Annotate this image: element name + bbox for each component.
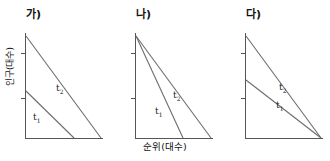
panel-a-label-t1: t1 <box>33 113 40 124</box>
panel-b-label-t2: t2 <box>173 91 180 102</box>
panel-c-plot <box>220 0 330 161</box>
panel-b-plot <box>110 0 220 161</box>
panel-c-label-t2: t2 <box>279 83 286 94</box>
panel-a-label-t2: t2 <box>56 84 63 95</box>
panel-c: 다) t2 t1 <box>220 0 330 161</box>
panel-a: 가) 인구(대수) t2 t1 <box>0 0 110 161</box>
panel-a-plot <box>0 0 110 161</box>
panel-b-x-axis-label: 순위(대수) <box>110 142 220 152</box>
panel-b: 나) 순위(대수) t2 t1 <box>110 0 220 161</box>
panel-b-label-t1: t1 <box>155 107 162 118</box>
rank-size-figure: 가) 인구(대수) t2 t1 나) 순위(대수) t2 t1 다) <box>0 0 330 161</box>
panel-c-label-t1: t1 <box>276 101 283 112</box>
panel-b-curve-t2 <box>136 36 211 138</box>
panel-b-curve-t1 <box>136 36 183 138</box>
panel-a-y-axis-label: 인구(대수) <box>6 37 15 97</box>
